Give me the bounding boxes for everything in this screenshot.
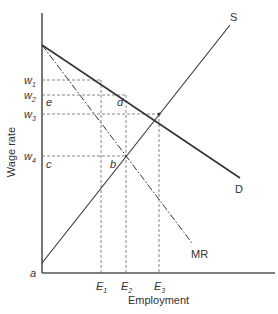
mr-label: MR: [191, 248, 208, 260]
wage-labels: w1 w2 w3 w4: [24, 74, 36, 164]
demand-curve: [42, 45, 240, 178]
wage-diagram: S D MR w1 w2 w3 w4 E1 E2 E3 a b c d e Em…: [0, 0, 278, 314]
point-e-label: e: [46, 96, 52, 108]
w2-label: w2: [24, 89, 36, 103]
x-axis-title: Employment: [128, 294, 189, 306]
supply-label: S: [230, 11, 237, 23]
point-a-label: a: [30, 267, 36, 279]
e2-label: E2: [121, 280, 132, 294]
y-axis-title: Wage rate: [5, 127, 17, 177]
e3-label: E3: [154, 280, 165, 294]
w3-label: w3: [24, 108, 36, 122]
point-d-label: d: [117, 96, 124, 108]
e1-label: E1: [96, 280, 107, 294]
supply-curve: [42, 25, 230, 263]
point-b-label: b: [110, 158, 116, 170]
equilibrium-point: [158, 113, 161, 116]
demand-label: D: [235, 183, 243, 195]
point-c-label: c: [46, 158, 52, 170]
w4-label: w4: [24, 150, 36, 164]
w1-label: w1: [24, 74, 36, 88]
mr-curve: [42, 45, 192, 243]
employment-labels: E1 E2 E3: [96, 280, 165, 294]
